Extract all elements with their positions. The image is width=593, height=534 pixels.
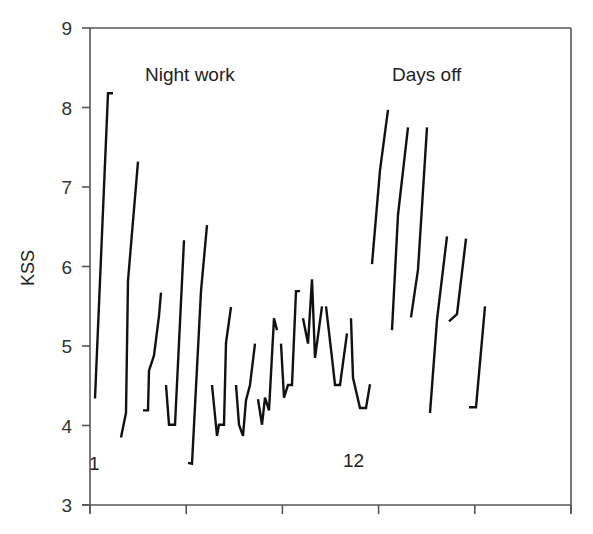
series-line-day-7: [236, 344, 255, 436]
series-line-day-5: [188, 225, 207, 464]
y-tick-label: 9: [61, 18, 72, 39]
y-tick-label: 7: [61, 177, 72, 198]
y-axis-ticks: 3456789: [61, 18, 90, 516]
series-line-off-1: [372, 110, 388, 264]
y-tick-label: 6: [61, 257, 72, 278]
series-line-day-2: [121, 162, 138, 438]
series-line-off-6: [469, 306, 485, 407]
series-line-day-1: [95, 93, 113, 398]
y-tick-label: 8: [61, 98, 72, 119]
series-line-day-11: [326, 306, 347, 385]
y-tick-label: 3: [61, 495, 72, 516]
series-line-day-10: [303, 279, 322, 358]
series-line-day-4: [166, 240, 184, 424]
y-axis-title: KSS: [18, 250, 38, 286]
day-start-label: 1: [89, 453, 100, 474]
series-line-day-9: [281, 291, 300, 398]
days-off-label: Days off: [392, 64, 462, 85]
series-line-off-3: [411, 127, 427, 317]
kss-line-chart: 3456789 Night work Days off 1 12 KSS: [0, 0, 593, 534]
plot-frame: [82, 28, 571, 513]
series-line-day-3: [143, 293, 161, 411]
series-line-off-2: [392, 127, 408, 330]
series-line-day-8: [258, 318, 277, 425]
y-tick-label: 5: [61, 336, 72, 357]
kss-series: [95, 93, 485, 464]
day-end-label: 12: [343, 450, 364, 471]
night-work-label: Night work: [145, 64, 235, 85]
x-axis-ticks: [90, 505, 571, 514]
series-line-off-4: [430, 236, 447, 412]
series-line-off-5: [449, 239, 466, 322]
series-line-day-12: [351, 318, 370, 408]
series-line-day-6: [212, 307, 231, 436]
y-tick-label: 4: [61, 416, 72, 437]
